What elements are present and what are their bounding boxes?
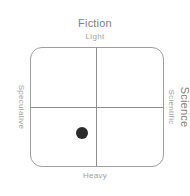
horizontal-divider — [30, 107, 163, 108]
plot-point-marker[interactable] — [76, 127, 88, 139]
axis-label-light: Light — [0, 33, 190, 41]
science-title: Science — [179, 87, 190, 128]
axis-label-heavy: Heavy — [0, 172, 190, 180]
fiction-title: Fiction — [0, 18, 190, 29]
axis-label-speculative: Speculative — [17, 85, 25, 130]
axis-label-scientific: Scientific — [167, 89, 175, 124]
